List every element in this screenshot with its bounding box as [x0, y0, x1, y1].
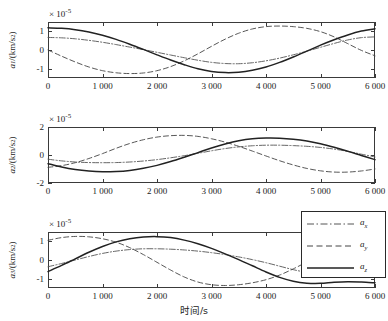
y-tick-mark [371, 31, 375, 32]
legend-label-ay: ay [360, 239, 367, 251]
y-tick-label: 2 [26, 123, 44, 132]
x-tick-mark [48, 232, 49, 236]
legend-item-ax[interactable]: ax [302, 213, 387, 235]
x-tick-label: 4 000 [246, 291, 286, 301]
y-tick-mark [371, 279, 375, 280]
x-tick-mark [321, 22, 322, 26]
legend-swatch-solid [307, 264, 354, 272]
x-tick-mark [212, 74, 213, 78]
x-tick-label: 6 000 [355, 291, 388, 301]
y-tick-mark [48, 279, 52, 280]
x-tick-mark [266, 22, 267, 26]
y-tick-label: -1 [26, 65, 44, 74]
y-tick-label: 0 [26, 46, 44, 55]
x-tick-mark [103, 22, 104, 26]
x-tick-mark [157, 127, 158, 131]
y-tick-mark [48, 183, 52, 184]
x-tick-mark [103, 284, 104, 288]
x-tick-mark [157, 179, 158, 183]
x-tick-mark [212, 22, 213, 26]
y-tick-label: 0 [26, 151, 44, 160]
legend-swatch-dashed [307, 242, 354, 250]
x-tick-mark [375, 22, 376, 26]
subplot-2: × 10-5 a2/(km/s2) 20-2 01 0002 0003 0004… [0, 105, 388, 210]
x-tick-mark [157, 22, 158, 26]
x-tick-label: 0 [28, 186, 68, 196]
x-tick-mark [375, 284, 376, 288]
legend-label-ax: ax [360, 217, 367, 229]
x-tick-label: 4 000 [246, 81, 286, 91]
x-tick-mark [157, 232, 158, 236]
x-tick-mark [321, 284, 322, 288]
subplot-1: × 10-5 a1/(km/s2) 10-1 01 0002 0003 0004… [0, 0, 388, 105]
x-tick-label: 2 000 [137, 186, 177, 196]
x-tick-mark [212, 284, 213, 288]
x-tick-mark [266, 232, 267, 236]
x-tick-mark [266, 127, 267, 131]
legend-item-az[interactable]: az [302, 257, 387, 279]
x-tick-label: 6 000 [355, 81, 388, 91]
x-tick-mark [103, 74, 104, 78]
x-tick-mark [48, 127, 49, 131]
series-a_y [48, 135, 375, 172]
legend-item-ay[interactable]: ay [302, 235, 387, 257]
x-tick-mark [103, 232, 104, 236]
y-tick-mark [48, 50, 52, 51]
y-tick-mark [48, 69, 52, 70]
x-tick-mark [48, 22, 49, 26]
x-tick-mark [375, 127, 376, 131]
x-tick-label: 5 000 [301, 291, 341, 301]
y-tick-label: -1 [26, 275, 44, 284]
x-tick-mark [157, 284, 158, 288]
x-tick-mark [321, 127, 322, 131]
x-tick-label: 0 [28, 291, 68, 301]
series-a_z [48, 138, 375, 172]
y-tick-mark [48, 241, 52, 242]
x-tick-mark [103, 179, 104, 183]
x-tick-label: 3 000 [192, 291, 232, 301]
x-tick-mark [212, 127, 213, 131]
y-tick-mark [48, 260, 52, 261]
x-tick-mark [266, 284, 267, 288]
x-tick-label: 3 000 [192, 186, 232, 196]
x-tick-label: 4 000 [246, 186, 286, 196]
x-tick-label: 5 000 [301, 186, 341, 196]
x-tick-mark [375, 74, 376, 78]
x-axis-label: 时间/s [0, 303, 388, 317]
x-tick-label: 2 000 [137, 291, 177, 301]
curves-1 [48, 22, 375, 78]
x-tick-label: 3 000 [192, 81, 232, 91]
legend-label-az: az [360, 261, 367, 273]
y-tick-mark [48, 31, 52, 32]
x-tick-mark [321, 179, 322, 183]
curves-2 [48, 127, 375, 183]
y-tick-mark [371, 50, 375, 51]
x-tick-mark [157, 74, 158, 78]
x-tick-mark [266, 179, 267, 183]
x-tick-label: 0 [28, 81, 68, 91]
x-tick-mark [212, 232, 213, 236]
legend-swatch-dash-dot [307, 220, 354, 228]
x-tick-label: 1 000 [83, 186, 123, 196]
chart-figure: × 10-5 a1/(km/s2) 10-1 01 0002 0003 0004… [0, 0, 388, 321]
y-tick-mark [371, 183, 375, 184]
x-tick-mark [266, 74, 267, 78]
y-tick-label: 0 [26, 256, 44, 265]
x-tick-mark [103, 127, 104, 131]
y-tick-mark [371, 69, 375, 70]
x-tick-label: 1 000 [83, 81, 123, 91]
x-tick-mark [48, 284, 49, 288]
series-a_x [48, 37, 375, 64]
chart-legend: ax ay az [301, 211, 386, 278]
x-tick-label: 2 000 [137, 81, 177, 91]
subplot-3: × 10-5 a3/(km/s2) 10-1 01 0002 0003 0004… [0, 210, 388, 321]
x-tick-mark [48, 74, 49, 78]
x-tick-label: 1 000 [83, 291, 123, 301]
y-tick-label: 1 [26, 27, 44, 36]
exponent-note-2: × 10-5 [49, 111, 71, 124]
x-tick-mark [212, 179, 213, 183]
exponent-note-1: × 10-5 [49, 6, 71, 19]
x-tick-mark [321, 74, 322, 78]
x-tick-mark [48, 179, 49, 183]
y-tick-mark [371, 155, 375, 156]
